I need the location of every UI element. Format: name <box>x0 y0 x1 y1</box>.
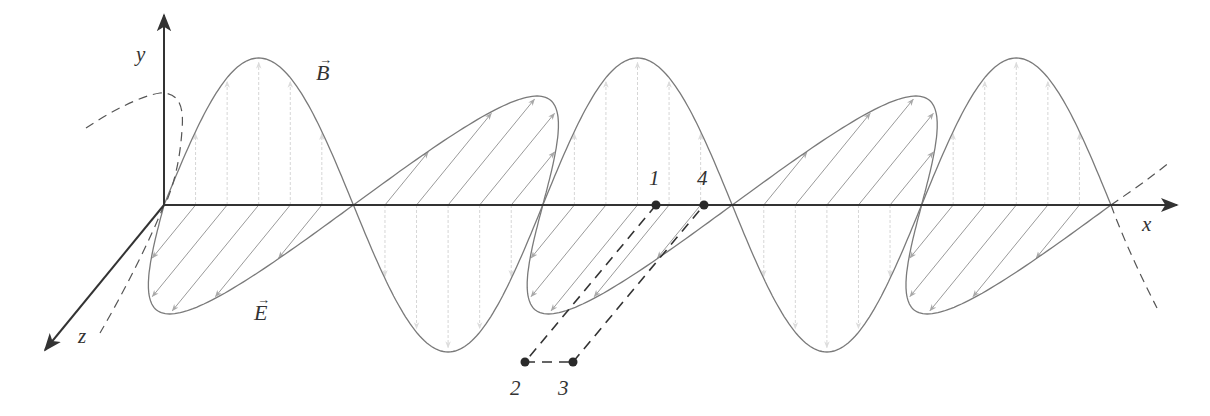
e-field-vector <box>890 152 933 205</box>
e-field-vector <box>279 205 322 258</box>
e-field-vector <box>764 152 807 205</box>
point-4 <box>700 201 709 210</box>
e-field-vector <box>385 152 428 205</box>
e-field-vector <box>448 99 534 205</box>
dashed-e-continuation-right <box>1111 162 1170 205</box>
x-axis-label: x <box>1142 214 1151 235</box>
e-field-vector <box>795 113 870 205</box>
e-field-vector <box>1036 205 1079 258</box>
point-3 <box>569 358 578 367</box>
dashed-b-continuation-left <box>86 93 182 205</box>
point-label-2: 2 <box>510 378 521 399</box>
e-field-vector <box>152 205 195 258</box>
point-label-1: 1 <box>649 168 660 189</box>
vector-arrow-icon: → <box>257 293 270 306</box>
y-axis-label: y <box>136 44 145 65</box>
e-field-vector <box>172 205 258 311</box>
e-field-vector <box>827 99 913 205</box>
e-field-vector <box>480 113 555 205</box>
b-field-label: → B <box>316 62 329 84</box>
e-field-label: → E <box>254 302 267 324</box>
loop-path-1234 <box>525 205 704 362</box>
e-field-vector <box>531 205 574 258</box>
e-field-vector <box>417 113 492 205</box>
e-field-vector <box>973 205 1048 297</box>
e-field-vector <box>531 205 606 297</box>
dashed-e-continuation-left <box>100 205 164 333</box>
em-wave-diagram <box>0 0 1210 416</box>
z-axis <box>45 205 164 350</box>
point-label-4: 4 <box>697 168 708 189</box>
loop-points <box>521 201 709 367</box>
e-field-vector <box>657 205 700 258</box>
e-field-vector <box>858 113 933 205</box>
point-2 <box>521 358 530 367</box>
e-field-vector <box>551 205 637 311</box>
e-field-vector <box>216 205 291 297</box>
point-1 <box>652 201 661 210</box>
e-field-vector <box>152 205 227 297</box>
point-label-3: 3 <box>558 378 569 399</box>
z-axis-label: z <box>78 326 86 347</box>
vector-arrow-icon: → <box>319 53 332 66</box>
e-field-vector <box>511 152 554 205</box>
e-field-vector <box>930 205 1016 311</box>
e-field-vector <box>910 205 953 258</box>
e-field-vector <box>594 205 669 297</box>
e-field-vector <box>910 205 985 297</box>
